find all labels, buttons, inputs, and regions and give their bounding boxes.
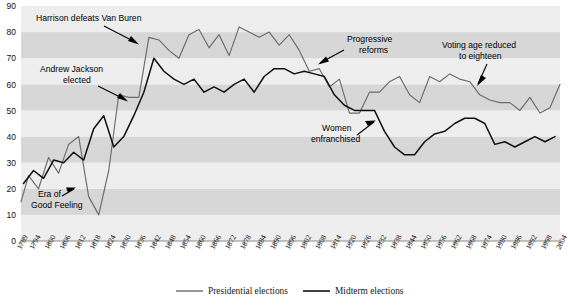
chart-legend: Presidential elections Midterm elections (176, 286, 404, 296)
voter-turnout-chart: 0102030405060708090 17891794180018061812… (0, 0, 568, 305)
y-axis-tick-label: 30 (7, 158, 17, 168)
legend-label-midterm-elections: Midterm elections (335, 286, 404, 296)
y-axis-tick-label: 10 (7, 210, 17, 220)
annotation-era-label-line1: Era of (38, 189, 62, 199)
annotation-jackson-label-line2: elected (63, 75, 91, 85)
legend-item-midterm-elections[interactable]: Midterm elections (303, 286, 404, 296)
y-axis-tick-label: 70 (7, 53, 17, 63)
y-axis-tick-label: 20 (7, 184, 17, 194)
annotation-harrison-label: Harrison defeats Van Buren (36, 13, 142, 23)
annotation-jackson-label-line1: Andrew Jackson (40, 64, 103, 74)
annotation-progressive-label-line1: Progressive (347, 34, 393, 44)
y-axis-tick-label: 40 (7, 132, 17, 142)
plot-band (21, 137, 560, 163)
chart-canvas: 0102030405060708090 17891794180018061812… (0, 0, 568, 305)
annotation-women-label-line2: enfranchised (311, 134, 360, 144)
y-axis-tick-label: 80 (7, 27, 17, 37)
legend-item-presidential-elections[interactable]: Presidential elections (176, 286, 288, 296)
annotation-progressive-label-line2: reforms (359, 45, 388, 55)
legend-label-presidential-elections: Presidential elections (208, 286, 288, 296)
x-axis-tick-labels: 1789179418001806181218181824183018361842… (15, 233, 568, 251)
plot-band (21, 110, 560, 136)
y-axis-tick-label: 60 (7, 80, 17, 90)
annotation-women-label-line1: Women (322, 123, 352, 133)
y-axis-tick-labels: 0102030405060708090 (7, 1, 17, 246)
annotation-voting-age-label-line1: Voting age reduced (442, 40, 516, 50)
annotation-voting-age-label-line2: to eighteen (459, 51, 502, 61)
y-axis-tick-label: 90 (7, 1, 17, 11)
y-axis-tick-label: 50 (7, 106, 17, 116)
plot-band (21, 163, 560, 189)
annotation-era-label-line2: Good Feeling (31, 200, 83, 210)
